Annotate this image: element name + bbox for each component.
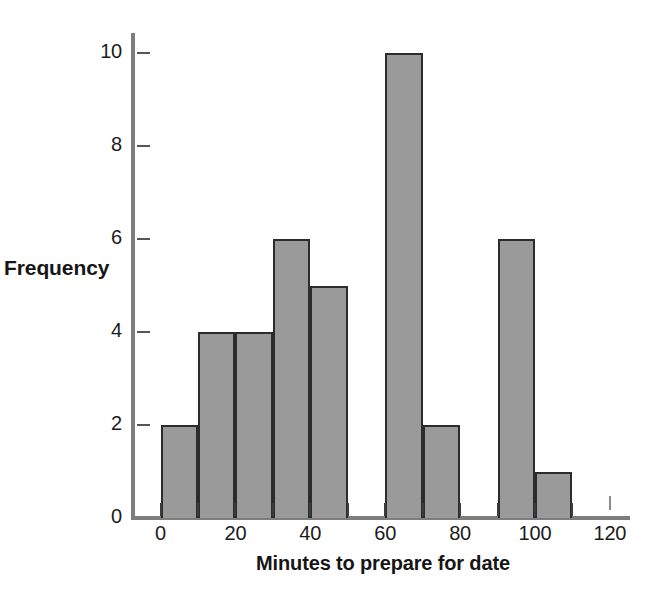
y-axis-title: Frequency [4,256,128,280]
x-axis-tick [347,503,349,516]
y-axis-tick-label: 2 [76,412,122,435]
x-axis-tick [422,503,424,516]
y-axis-tick [137,145,150,147]
x-axis-tick-label: 60 [355,522,415,545]
x-axis-tick [160,503,162,516]
x-axis-tick [534,503,536,516]
y-axis-tick-label: 0 [76,505,122,528]
x-axis-tick-label: 20 [205,522,265,545]
x-axis-title: Minutes to prepare for date [133,552,633,575]
x-axis-tick-label: 40 [280,522,340,545]
histogram-bar [310,286,347,519]
y-axis-tick [137,424,150,426]
x-axis-tick [234,503,236,516]
y-axis-tick-label: 10 [76,40,122,63]
x-axis-tick [272,503,274,516]
histogram-bar [161,425,198,518]
x-axis-tick [497,503,499,516]
histogram-figure: 0246810 020406080100120 Frequency Minute… [0,0,650,591]
x-axis-tick-label: 120 [580,522,640,545]
x-axis-tick-label: 100 [505,522,565,545]
histogram-bar [198,332,235,518]
x-axis-tick-label: 80 [430,522,490,545]
x-axis-tick [197,503,199,516]
x-axis-tick [384,503,386,516]
histogram-bar [423,425,460,518]
histogram-bar [385,53,422,518]
x-axis-tick-label: 0 [131,522,191,545]
y-axis-tick [137,238,150,240]
plot-area: 0246810 020406080100120 [0,0,650,591]
x-axis-tick [609,496,611,510]
y-axis-tick [137,331,150,333]
histogram-bar [535,472,572,519]
y-axis-tick-label: 4 [76,319,122,342]
x-axis-tick [571,503,573,516]
histogram-bar [273,239,310,518]
histogram-bar [498,239,535,518]
y-axis-line [131,33,135,520]
y-axis-tick-label: 6 [76,226,122,249]
histogram-bar [235,332,272,518]
y-axis-tick-label: 8 [76,133,122,156]
y-axis-tick [137,52,150,54]
x-axis-tick [309,503,311,516]
x-axis-tick [459,503,461,516]
